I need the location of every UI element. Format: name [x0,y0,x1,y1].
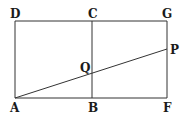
label-q: Q [80,61,90,75]
label-g: G [162,7,172,21]
label-c: C [88,7,98,21]
geometry-diagram: D C G P Q A B F [0,0,184,122]
label-f: F [163,101,172,115]
label-b: B [88,101,98,115]
label-d: D [10,7,20,21]
label-a: A [9,101,20,115]
label-p: P [170,43,179,57]
